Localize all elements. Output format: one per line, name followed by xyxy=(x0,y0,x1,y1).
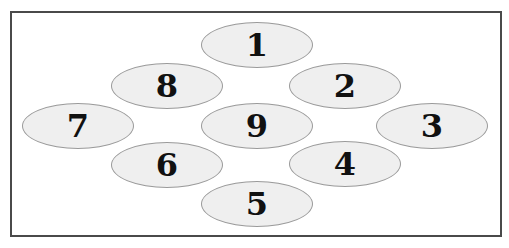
node-label: 4 xyxy=(334,148,356,180)
ellipse-node-8: 8 xyxy=(111,63,223,109)
node-label: 2 xyxy=(334,70,356,102)
node-label: 6 xyxy=(156,149,178,181)
ellipse-node-6: 6 xyxy=(111,142,223,188)
ellipse-node-4: 4 xyxy=(289,141,401,187)
ellipse-node-9: 9 xyxy=(201,103,313,149)
ellipse-node-3: 3 xyxy=(376,103,488,149)
node-label: 9 xyxy=(246,110,268,142)
ellipse-node-1: 1 xyxy=(201,22,313,68)
node-label: 8 xyxy=(156,70,178,102)
ellipse-node-7: 7 xyxy=(22,103,134,149)
node-label: 5 xyxy=(246,188,268,220)
ellipse-node-2: 2 xyxy=(289,63,401,109)
node-label: 1 xyxy=(246,29,268,61)
node-label: 7 xyxy=(67,110,89,142)
ellipse-node-5: 5 xyxy=(201,181,313,227)
node-label: 3 xyxy=(421,110,443,142)
